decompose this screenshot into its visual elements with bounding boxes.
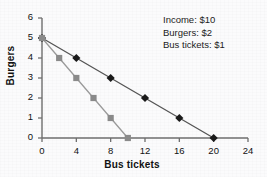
x-tick-label: 16 bbox=[169, 145, 189, 156]
x-tick-label: 20 bbox=[204, 145, 224, 156]
x-axis-title: Bus tickets bbox=[42, 159, 222, 170]
data-point-square bbox=[39, 35, 45, 41]
annotation-bus-ticket-price: Bus tickets: $1 bbox=[163, 39, 225, 52]
data-point-diamond bbox=[107, 74, 115, 82]
data-point-diamond bbox=[141, 94, 149, 102]
y-tick-label: 2 bbox=[19, 91, 33, 102]
y-tick-label: 6 bbox=[19, 11, 33, 22]
x-tick-label: 8 bbox=[101, 145, 121, 156]
annotation-burgers-price: Burgers: $2 bbox=[163, 27, 225, 40]
annotation-income: Income: $10 bbox=[163, 14, 225, 27]
x-tick-label: 12 bbox=[135, 145, 155, 156]
y-tick-label: 4 bbox=[19, 51, 33, 62]
y-axis-title: Burgers bbox=[5, 36, 16, 96]
data-point-square bbox=[108, 115, 114, 121]
data-point-diamond bbox=[175, 114, 183, 122]
y-tick-label: 1 bbox=[19, 111, 33, 122]
data-point-diamond bbox=[72, 54, 80, 62]
data-point-diamond bbox=[210, 134, 218, 142]
y-tick-label: 3 bbox=[19, 71, 33, 82]
chart-container: Burgers Bus tickets Income: $10 Burgers:… bbox=[0, 0, 267, 177]
data-point-square bbox=[73, 75, 79, 81]
series-line-budget-line-square bbox=[42, 38, 128, 138]
data-point-square bbox=[90, 95, 96, 101]
data-point-square bbox=[125, 135, 131, 141]
y-tick-label: 0 bbox=[19, 131, 33, 142]
data-point-square bbox=[56, 55, 62, 61]
series-line-budget-line-diamond bbox=[42, 38, 214, 138]
annotation-block: Income: $10 Burgers: $2 Bus tickets: $1 bbox=[163, 14, 225, 52]
x-tick-label: 4 bbox=[66, 145, 86, 156]
x-tick-label: 0 bbox=[32, 145, 52, 156]
x-tick-label: 24 bbox=[238, 145, 258, 156]
y-tick-label: 5 bbox=[19, 31, 33, 42]
